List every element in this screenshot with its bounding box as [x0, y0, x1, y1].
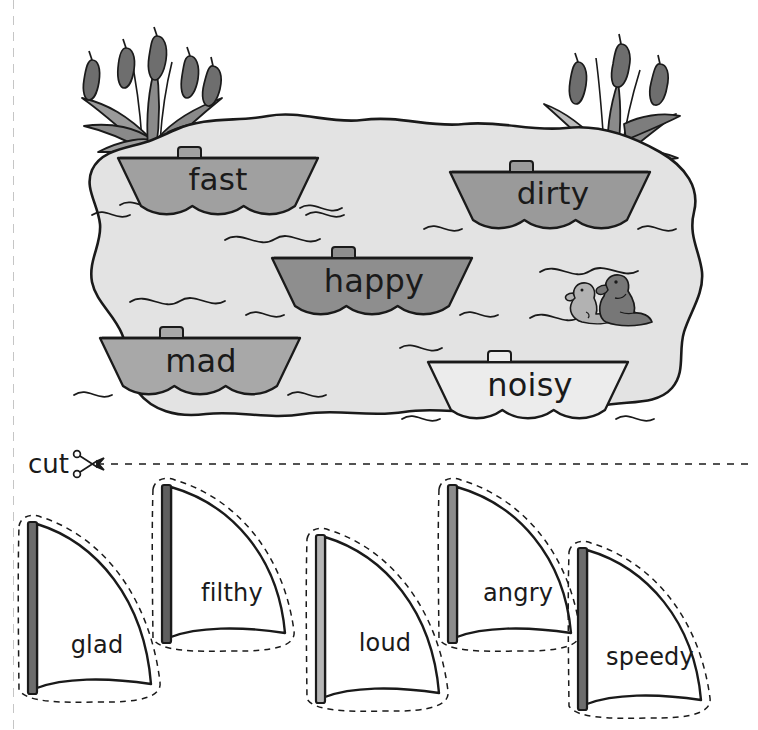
sail-body: [171, 487, 285, 637]
sail-body: [457, 487, 571, 637]
sail-word: glad: [71, 631, 124, 659]
sail-mast: [162, 485, 171, 643]
sail-angry: angry: [438, 478, 580, 651]
sail-body: [325, 537, 439, 697]
sail-mast: [448, 485, 457, 643]
sail-word: filthy: [201, 579, 263, 607]
sails-group: gladfilthyloudangryspeedy: [18, 478, 710, 718]
sails-section: gladfilthyloudangryspeedy: [0, 0, 758, 730]
sail-word: speedy: [606, 643, 694, 671]
sail-glad: glad: [18, 515, 160, 702]
sail-loud: loud: [306, 528, 448, 711]
sail-body: [587, 550, 701, 704]
sail-mast: [316, 535, 325, 703]
sail-word: angry: [483, 579, 553, 607]
sail-speedy: speedy: [568, 541, 710, 718]
worksheet-page: fastdirtyhappymadnoisy cut gladfilthylou…: [0, 0, 758, 730]
sail-body: [37, 524, 151, 688]
sail-word: loud: [359, 629, 412, 657]
sail-mast: [28, 522, 37, 694]
sail-filthy: filthy: [152, 478, 294, 651]
sail-mast: [578, 548, 587, 710]
